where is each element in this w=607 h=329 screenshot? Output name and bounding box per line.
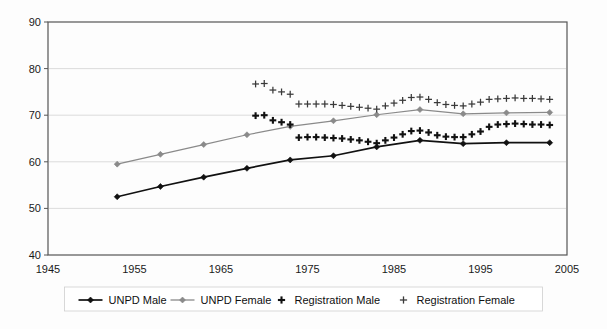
point-unpd-male-1953 — [114, 194, 120, 200]
point-registration-female-1987 — [408, 94, 415, 101]
point-unpd-female-1968 — [244, 132, 250, 138]
point-registration-female-1981 — [356, 104, 363, 111]
point-registration-female-1992 — [451, 102, 458, 109]
y-tick-70: 70 — [29, 109, 41, 121]
point-unpd-male-1993 — [460, 141, 466, 147]
point-registration-male-2000 — [520, 121, 527, 128]
x-tick-1955: 1955 — [122, 263, 146, 275]
point-registration-female-1969 — [252, 81, 259, 88]
series-line — [117, 140, 550, 196]
point-registration-male-1971 — [270, 117, 277, 124]
point-registration-male-1975 — [304, 134, 311, 141]
point-unpd-male-1968 — [244, 165, 250, 171]
legend-label: Registration Male — [295, 294, 381, 306]
legend-item-registration-female[interactable]: Registration Female — [400, 294, 515, 306]
point-registration-male-1970 — [261, 112, 268, 119]
point-unpd-female-1978 — [330, 118, 336, 124]
point-registration-female-1994 — [468, 101, 475, 108]
point-registration-female-2001 — [529, 95, 536, 102]
chart-legend: UNPD MaleUNPD FemaleRegistration MaleReg… — [65, 287, 543, 311]
point-unpd-female-1963 — [201, 142, 207, 148]
point-registration-female-2003 — [546, 96, 553, 103]
point-registration-male-1992 — [451, 134, 458, 141]
point-registration-female-1979 — [339, 102, 346, 109]
point-registration-female-1970 — [261, 80, 268, 87]
point-registration-female-1971 — [270, 87, 277, 94]
x-tick-1965: 1965 — [209, 263, 233, 275]
point-unpd-male-2003 — [547, 140, 553, 146]
x-tick-1985: 1985 — [382, 263, 406, 275]
data-series-group — [114, 80, 553, 200]
point-registration-female-1975 — [304, 101, 311, 108]
x-tick-1945: 1945 — [36, 263, 60, 275]
point-registration-female-1984 — [382, 102, 389, 109]
point-registration-male-1993 — [460, 134, 467, 141]
point-registration-male-1990 — [434, 132, 441, 139]
legend-label: UNPD Female — [201, 294, 272, 306]
point-registration-female-1991 — [443, 101, 450, 108]
point-registration-female-1993 — [460, 102, 467, 109]
point-registration-male-1994 — [468, 131, 475, 138]
point-registration-female-1980 — [347, 103, 354, 110]
point-registration-male-1982 — [365, 138, 372, 145]
point-registration-male-1978 — [330, 135, 337, 142]
point-unpd-male-1958 — [157, 183, 163, 189]
point-registration-female-1982 — [365, 105, 372, 112]
point-registration-male-1969 — [252, 112, 259, 119]
x-tick-1995: 1995 — [468, 263, 492, 275]
point-unpd-male-1988 — [417, 137, 423, 143]
point-registration-male-1996 — [486, 123, 493, 130]
x-tick-1975: 1975 — [295, 263, 319, 275]
point-registration-female-1983 — [373, 106, 380, 113]
point-registration-female-1990 — [434, 99, 441, 106]
chart-container: 405060708090 194519551965197519851995200… — [0, 0, 607, 329]
point-unpd-female-1958 — [157, 151, 163, 157]
point-registration-male-2001 — [529, 121, 536, 128]
point-registration-female-1985 — [391, 100, 398, 107]
point-registration-female-1978 — [330, 101, 337, 108]
point-registration-female-1977 — [321, 101, 328, 108]
point-registration-female-1972 — [278, 89, 285, 96]
point-registration-female-1997 — [494, 95, 501, 102]
life-expectancy-line-chart: 405060708090 194519551965197519851995200… — [0, 0, 607, 329]
point-registration-male-1995 — [477, 128, 484, 135]
point-registration-male-1983 — [373, 140, 380, 147]
point-registration-male-1999 — [512, 120, 519, 127]
point-registration-male-1972 — [278, 119, 285, 126]
point-unpd-male-1963 — [201, 174, 207, 180]
point-registration-male-1980 — [347, 136, 354, 143]
point-registration-male-1987 — [408, 128, 415, 135]
point-registration-female-1996 — [486, 96, 493, 103]
point-registration-female-1974 — [295, 101, 302, 108]
y-tick-90: 90 — [29, 16, 41, 28]
point-unpd-female-1988 — [417, 107, 423, 113]
point-registration-male-1986 — [399, 131, 406, 138]
point-registration-male-1977 — [321, 134, 328, 141]
point-unpd-female-2003 — [547, 109, 553, 115]
y-tick-60: 60 — [29, 156, 41, 168]
point-registration-male-1985 — [391, 134, 398, 141]
point-registration-male-2003 — [546, 122, 553, 129]
legend-label: Registration Female — [417, 294, 515, 306]
point-unpd-female-1983 — [374, 112, 380, 118]
series-registration-female — [252, 80, 553, 112]
point-registration-male-1989 — [425, 129, 432, 136]
point-registration-male-1998 — [503, 121, 510, 128]
series-unpd-male — [114, 137, 553, 199]
point-registration-male-1974 — [295, 134, 302, 141]
point-registration-female-1973 — [287, 91, 294, 98]
point-registration-male-1976 — [313, 134, 320, 141]
point-registration-male-1981 — [356, 137, 363, 144]
point-registration-male-1988 — [417, 127, 424, 134]
point-registration-female-2000 — [520, 95, 527, 102]
y-tick-80: 80 — [29, 63, 41, 75]
point-registration-female-2002 — [538, 95, 545, 102]
point-registration-female-1976 — [313, 101, 320, 108]
legend-label: UNPD Male — [109, 294, 167, 306]
point-registration-male-1984 — [382, 137, 389, 144]
x-tick-2005: 2005 — [555, 263, 579, 275]
point-registration-female-1998 — [503, 95, 510, 102]
y-tick-50: 50 — [29, 202, 41, 214]
point-registration-male-1979 — [339, 135, 346, 142]
point-unpd-male-1978 — [330, 153, 336, 159]
